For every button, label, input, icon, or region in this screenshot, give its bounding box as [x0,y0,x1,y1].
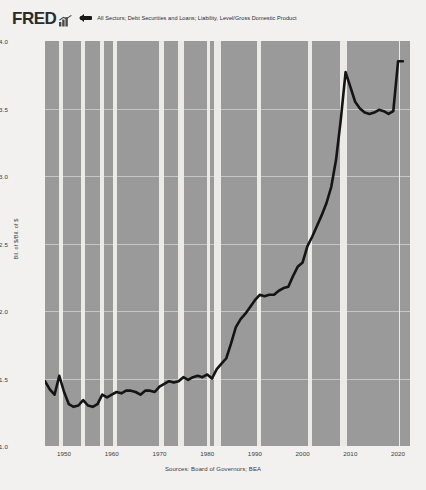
y-axis-label: Bil. of $/Bil. of $ [13,219,19,260]
legend-series-label: All Sectors; Debt Securities and Loans; … [97,15,296,21]
fred-logo: FRED [12,10,56,27]
y-axis-tick-label: 2.5 [0,240,8,247]
y-axis-tick-label: 1.0 [0,443,8,450]
y-axis-tick-label: 1.5 [0,375,8,382]
y-axis-tick-label: 4.0 [0,38,8,45]
chart-header: FRED All Sectors; Debt Securities and Lo… [0,4,426,32]
x-axis-tick-label: 2000 [296,450,310,457]
x-axis-tick-label: 1980 [200,450,214,457]
x-axis-tick-label: 1950 [57,450,71,457]
chart-legend: All Sectors; Debt Securities and Loans; … [80,15,296,21]
y-axis-tick-label: 3.0 [0,173,8,180]
x-axis-tick-label: 1960 [105,450,119,457]
x-axis-tick-label: 1970 [152,450,166,457]
x-axis-tick-label: 2010 [343,450,357,457]
legend-line-swatch [80,16,92,20]
y-axis-tick-label: 2.0 [0,308,8,315]
x-axis-tick-label: 2020 [391,450,405,457]
sources-note: Sources: Board of Governors; BEA [0,466,426,472]
x-axis-tick-label: 1990 [248,450,262,457]
bar-chart-mark-icon [59,13,72,25]
y-axis-tick-label: 3.5 [0,105,8,112]
series-line [45,41,410,446]
fred-chart-page: FRED All Sectors; Debt Securities and Lo… [0,0,426,490]
chart-plot-area [45,41,410,446]
